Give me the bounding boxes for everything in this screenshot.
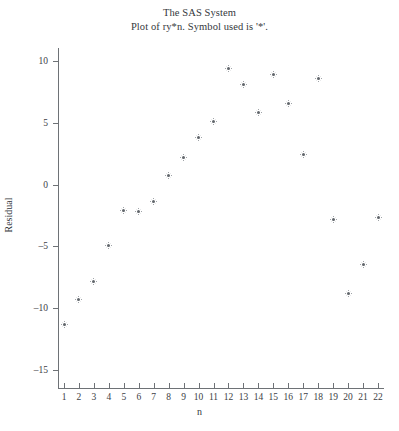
y-axis-tick-label: –15 [34, 365, 48, 375]
x-axis-tick-label: 22 [368, 392, 388, 403]
data-point-marker [224, 64, 233, 73]
y-axis-tick-label: 10 [39, 56, 49, 66]
y-axis-tick-label: 0 [43, 180, 48, 190]
data-point-marker [89, 277, 98, 286]
data-point-marker [119, 206, 128, 215]
data-point-marker [314, 74, 323, 83]
data-point-marker [359, 260, 368, 269]
data-point-marker [299, 150, 308, 159]
data-point-marker [329, 215, 338, 224]
y-axis-label: Residual [3, 198, 14, 233]
data-point-marker [179, 153, 188, 162]
data-point-marker [239, 80, 248, 89]
data-point-marker [269, 70, 278, 79]
sas-residual-plot-figure: The SAS System Plot of ry*n. Symbol used… [0, 0, 399, 431]
x-axis-label: n [0, 406, 399, 417]
data-point-marker [209, 117, 218, 126]
data-point-marker [149, 197, 158, 206]
y-axis-tick-label: –10 [34, 303, 48, 313]
y-axis-tick-label: 5 [43, 118, 48, 128]
chart-subtitle: Plot of ry*n. Symbol used is '*'. [0, 20, 399, 34]
data-point-marker [254, 108, 263, 117]
data-point-marker [164, 171, 173, 180]
data-point-marker [134, 207, 143, 216]
data-point-marker [344, 289, 353, 298]
x-axis-line [58, 388, 384, 389]
y-axis-tick-label: –5 [39, 241, 49, 251]
chart-title-block: The SAS System Plot of ry*n. Symbol used… [0, 6, 399, 34]
data-point-marker [60, 320, 69, 329]
chart-title: The SAS System [0, 6, 399, 20]
data-point-marker [74, 295, 83, 304]
data-point-marker [374, 213, 383, 222]
data-point-marker [104, 241, 113, 250]
data-point-marker [194, 133, 203, 142]
data-point-marker [284, 99, 293, 108]
